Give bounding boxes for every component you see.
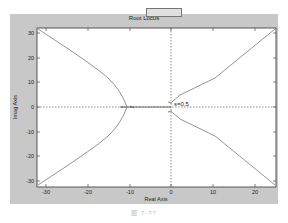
ytick-label: -30 — [26, 178, 34, 184]
ytick-label: -20 — [26, 153, 34, 159]
xtick-label: -10 — [126, 189, 134, 195]
xtick-label: -20 — [84, 189, 92, 195]
annotation-label: s=0.5 — [174, 101, 190, 107]
xtick-label: 10 — [210, 189, 216, 195]
root-locus-plot: -30 -20 -10 0 10 20 30 20 10 0 -10 -20 -… — [0, 0, 288, 223]
xtick-label: 0 — [169, 189, 172, 195]
ytick-label: 10 — [28, 79, 34, 85]
xtick-label: 20 — [252, 189, 258, 195]
figure-caption: 图 7-?? — [0, 208, 288, 217]
x-axis-label: Real Axis — [145, 196, 168, 202]
xtick-label: -30 — [42, 189, 50, 195]
ytick-label: 20 — [28, 55, 34, 61]
ytick-label: 30 — [28, 30, 34, 36]
ytick-label: 0 — [31, 104, 34, 110]
ytick-label: -10 — [26, 129, 34, 135]
y-axis-label: Imag Axis — [12, 95, 18, 119]
